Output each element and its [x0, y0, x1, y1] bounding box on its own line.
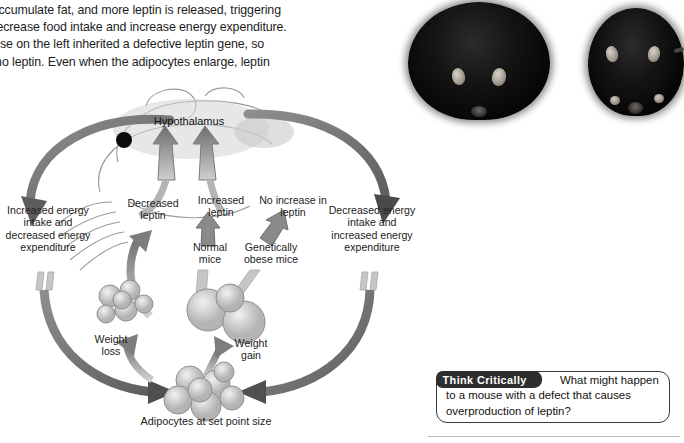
paw-icon — [610, 96, 620, 105]
snout-icon — [628, 102, 643, 114]
label-weight-gain: Weight gain — [228, 337, 274, 362]
label-increased-intake: Increased energy intake and decreased en… — [2, 204, 94, 254]
ear-icon — [450, 67, 466, 86]
stem-increased-intake — [36, 272, 54, 290]
think-critically-box: What might happen to a mouse with a defe… — [436, 371, 670, 423]
adipocyte-cluster-enlarged — [187, 284, 265, 343]
body-line-3: e mouse on the left inherited a defectiv… — [0, 36, 386, 53]
obese-mouse-photo — [408, 2, 550, 120]
leptin-feedback-diagram: Hypothalamus Decreased leptin Increased … — [0, 84, 420, 434]
horizontal-divider — [428, 436, 680, 437]
label-increased-leptin: Increased leptin — [190, 194, 252, 219]
normal-mouse-photo — [588, 8, 684, 116]
label-weight-loss: Weight loss — [88, 333, 134, 358]
label-genetically-obese-mice: Genetically obese mice — [234, 241, 308, 266]
body-line-1: ytes accumulate fat, and more leptin is … — [0, 2, 386, 19]
think-critically-tab: Think Critically — [436, 371, 542, 388]
adipocyte-cluster-setpoint — [164, 362, 244, 421]
adipocyte-cluster-small — [97, 280, 153, 323]
mouse-eye — [116, 132, 132, 148]
label-hypothalamus: Hypothalamus — [144, 115, 234, 127]
label-adipocytes-caption: Adipocytes at set point size — [106, 415, 306, 427]
snout-icon — [471, 106, 487, 117]
ear-icon — [646, 45, 661, 63]
mice-photograph — [398, 0, 680, 118]
ear-icon — [491, 67, 508, 87]
paw-icon — [654, 94, 664, 103]
body-paragraph: ytes accumulate fat, and more leptin is … — [0, 2, 386, 71]
label-decreased-intake: Decreased energy intake and increased en… — [326, 204, 418, 254]
label-decreased-leptin: Decreased leptin — [117, 197, 189, 222]
ear-icon — [604, 45, 620, 63]
body-line-4: uces no leptin. Even when the adipocytes… — [0, 54, 386, 71]
label-normal-mice: Normal mice — [186, 241, 234, 266]
label-no-increase-leptin: No increase in leptin — [256, 194, 330, 219]
body-line-2: that decrease food intake and increase e… — [0, 19, 386, 36]
stem-decreased-intake — [360, 272, 378, 290]
